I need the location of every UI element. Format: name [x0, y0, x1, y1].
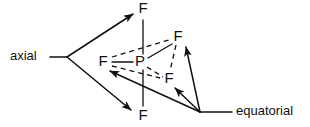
atom-label-f-equatorial-left: F: [98, 52, 107, 69]
equatorial-label: equatorial: [236, 103, 293, 118]
plane-edge-upper-right-to-lower-right: [170, 45, 176, 71]
axial-arrow-to-top-f: [67, 14, 133, 57]
atom-label-f-equatorial-upper-right: F: [173, 27, 182, 44]
atom-label-f-equatorial-lower-right: F: [164, 69, 173, 86]
atom-label-p: P: [135, 52, 145, 69]
atom-label-group: P F F F F F: [98, 0, 182, 123]
molecule-canvas: P F F F F F axial equatorial: [0, 0, 310, 127]
equatorial-arrow-to-left-f: [110, 71, 200, 112]
axial-label: axial: [10, 48, 37, 63]
bond-p-f-equatorial-upper-right: [148, 44, 172, 58]
atom-label-f-axial-top: F: [138, 0, 147, 16]
atom-label-f-axial-bottom: F: [138, 106, 147, 123]
equatorial-arrow-to-upper-right-f: [186, 47, 200, 112]
pf5-structure-diagram: P F F F F F axial equatorial: [0, 0, 310, 127]
